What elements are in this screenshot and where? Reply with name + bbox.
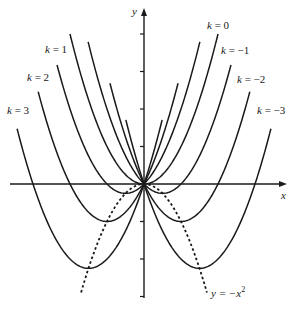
- x-axis-arrow-icon: [279, 181, 287, 187]
- parabola-family-chart: x y k = 0 k = −1 k = −2 k = −3 k = 1 k =…: [0, 0, 293, 313]
- curve-parabola: [17, 120, 162, 269]
- label-k-neg1: k = −1: [221, 44, 249, 56]
- curve-parabola: [126, 120, 271, 269]
- label-k1: k = 1: [45, 43, 67, 55]
- y-axis-arrow-icon: [141, 8, 147, 16]
- label-k3: k = 3: [7, 104, 30, 116]
- curve-parabola: [38, 83, 178, 221]
- label-k-neg3: k = −3: [257, 104, 286, 116]
- label-k-neg2: k = −2: [237, 73, 265, 85]
- y-axis-label: y: [131, 5, 137, 17]
- label-k0: k = 0: [207, 19, 230, 31]
- curve-parabola: [110, 83, 250, 221]
- label-dashed-parabola: y = −x2: [210, 285, 245, 299]
- x-axis-label: x: [280, 189, 286, 201]
- label-k2: k = 2: [27, 71, 49, 83]
